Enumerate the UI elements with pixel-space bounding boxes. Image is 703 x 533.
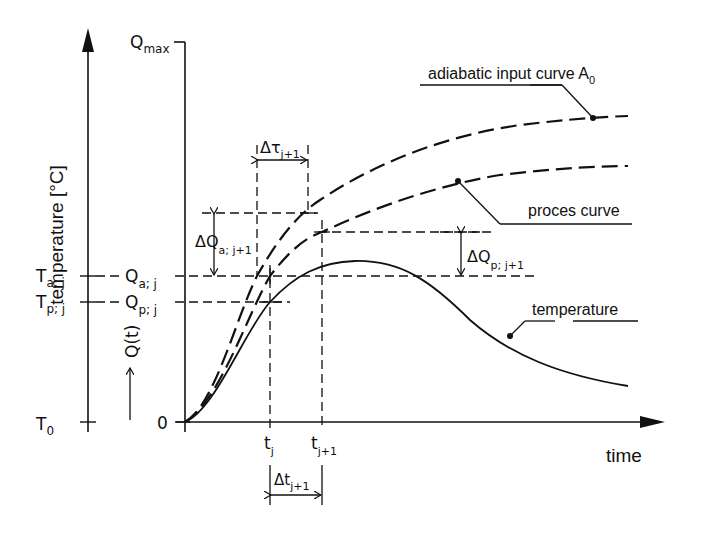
adiabatic-curve-label: adiabatic input curve A0 <box>428 65 595 86</box>
t0-label: T0 <box>35 414 54 438</box>
time-axis-label: time <box>606 445 642 466</box>
adiabatic-calorimetry-diagram: temperature [°C] <box>0 0 703 533</box>
q-a-j-label: Qa; j <box>125 266 157 291</box>
delta-q-p-label: ΔQp; j+1 <box>467 247 524 272</box>
intersection-marks <box>262 213 330 302</box>
temperature-curve <box>185 261 628 422</box>
process-curve-label: proces curve <box>528 202 620 219</box>
t-j1-label: tj+1 <box>311 433 337 458</box>
time-axis <box>175 416 665 428</box>
arrow-up-icon <box>82 28 94 52</box>
adiabatic-curve <box>185 116 628 422</box>
t-j-label: tj <box>264 433 274 458</box>
curves <box>185 116 628 422</box>
reference-lines <box>96 145 535 430</box>
temperature-axis: temperature [°C] <box>46 28 96 432</box>
q-max-label: Qmax <box>130 32 170 56</box>
q-axis-label: Q(t) <box>122 325 142 358</box>
arrow-right-icon <box>640 416 665 428</box>
temperature-curve-label: temperature <box>532 301 618 318</box>
q-zero-label: 0 <box>157 413 168 433</box>
q-p-j-label: Qp; j <box>125 292 157 317</box>
q-axis <box>174 42 190 432</box>
delta-tau-label: Δτj+1 <box>260 138 300 161</box>
delta-t-label: Δtj+1 <box>274 471 309 493</box>
delta-q-a-label: ΔQa; j+1 <box>195 232 252 257</box>
